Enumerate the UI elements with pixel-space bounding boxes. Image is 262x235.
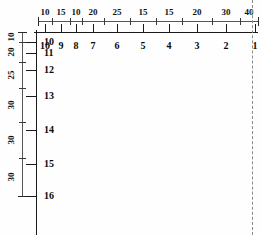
column-grid-tick bbox=[93, 24, 94, 32]
row-grid-tick bbox=[26, 53, 36, 54]
drawing-render-layer: 1015102025151520304010987654321102025303… bbox=[0, 0, 262, 235]
column-grid-label: 1 bbox=[253, 41, 258, 51]
column-grid-label: 3 bbox=[195, 41, 200, 51]
column-grid-tick bbox=[226, 24, 227, 32]
column-grid-tick bbox=[143, 24, 144, 32]
horizontal-dimension-tick bbox=[52, 18, 53, 25]
vertical-grid-axis bbox=[36, 30, 37, 235]
vertical-dimension-label: 30 bbox=[7, 136, 16, 145]
horizontal-dimension-tick bbox=[70, 18, 71, 25]
horizontal-dimension-tick bbox=[82, 18, 83, 25]
row-grid-tick bbox=[26, 96, 36, 97]
vertical-dimension-tick bbox=[19, 42, 26, 43]
row-grid-tick bbox=[26, 196, 36, 197]
vertical-dimension-label: 20 bbox=[7, 48, 16, 57]
column-grid-tick bbox=[45, 24, 46, 32]
horizontal-dimension-tick bbox=[258, 17, 259, 26]
horizontal-dimension-label: 10 bbox=[72, 8, 81, 17]
vertical-dimension-tick bbox=[19, 158, 26, 159]
column-grid-label: 7 bbox=[91, 41, 96, 51]
row-grid-label: 15 bbox=[44, 159, 54, 169]
horizontal-dimension-tick bbox=[156, 18, 157, 25]
row-grid-label: 13 bbox=[44, 91, 54, 101]
row-grid-label: 12 bbox=[44, 65, 54, 75]
column-grid-tick bbox=[76, 24, 77, 32]
row-grid-tick bbox=[26, 130, 36, 131]
horizontal-dimension-label: 30 bbox=[222, 8, 231, 17]
horizontal-dimension-tick bbox=[38, 17, 39, 26]
vertical-dimension-tick bbox=[19, 122, 26, 123]
column-grid-label: 6 bbox=[115, 41, 120, 51]
row-grid-label: 14 bbox=[44, 125, 54, 135]
column-grid-label: 4 bbox=[167, 41, 172, 51]
horizontal-dimension-label: 20 bbox=[193, 8, 202, 17]
row-grid-label: 10 bbox=[44, 37, 54, 47]
vertical-dimension-line bbox=[22, 32, 23, 196]
vertical-dimension-label: 25 bbox=[7, 71, 16, 80]
row-grid-label: 11 bbox=[44, 48, 53, 58]
column-grid-tick bbox=[169, 24, 170, 32]
right-edge-dashed-line bbox=[252, 0, 253, 235]
column-grid-label: 9 bbox=[59, 41, 64, 51]
row-grid-tick bbox=[26, 42, 36, 43]
horizontal-dimension-tick bbox=[212, 18, 213, 25]
row-grid-tick bbox=[26, 164, 36, 165]
horizontal-dimension-tick bbox=[104, 18, 105, 25]
vertical-dimension-tick bbox=[19, 88, 26, 89]
vertical-dimension-label: 10 bbox=[7, 33, 16, 42]
vertical-dimension-tick bbox=[18, 32, 27, 33]
row-grid-tick bbox=[26, 70, 36, 71]
horizontal-dimension-label: 15 bbox=[57, 8, 66, 17]
column-grid-tick bbox=[117, 24, 118, 32]
technical-drawing-canvas: 1015102025151520304010987654321102025303… bbox=[0, 0, 262, 235]
column-grid-label: 8 bbox=[74, 41, 79, 51]
row-grid-label: 16 bbox=[44, 191, 54, 201]
horizontal-dimension-label: 15 bbox=[165, 8, 174, 17]
horizontal-dimension-line bbox=[38, 21, 258, 22]
column-grid-tick bbox=[255, 24, 256, 32]
horizontal-dimension-tick bbox=[130, 18, 131, 25]
horizontal-grid-axis bbox=[34, 32, 258, 33]
horizontal-dimension-label: 25 bbox=[113, 8, 122, 17]
vertical-dimension-tick bbox=[19, 62, 26, 63]
horizontal-dimension-tick bbox=[240, 18, 241, 25]
vertical-dimension-label: 30 bbox=[7, 101, 16, 110]
horizontal-dimension-label: 15 bbox=[139, 8, 148, 17]
column-grid-tick bbox=[61, 24, 62, 32]
horizontal-dimension-label: 10 bbox=[41, 8, 50, 17]
vertical-dimension-label: 30 bbox=[7, 173, 16, 182]
horizontal-dimension-label: 20 bbox=[89, 8, 98, 17]
column-grid-label: 5 bbox=[141, 41, 146, 51]
column-grid-label: 2 bbox=[224, 41, 229, 51]
column-grid-tick bbox=[197, 24, 198, 32]
horizontal-dimension-tick bbox=[182, 18, 183, 25]
